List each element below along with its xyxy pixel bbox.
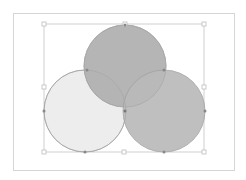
resize-handle[interactable]	[202, 22, 206, 26]
resize-handle[interactable]	[42, 85, 46, 89]
tangent-point-bottom-right	[163, 151, 166, 154]
venn-circle-right[interactable]	[123, 70, 205, 152]
resize-handle[interactable]	[202, 150, 206, 154]
center-point	[124, 110, 127, 113]
intersection-point	[163, 69, 166, 72]
tangent-point-left	[43, 110, 46, 113]
tangent-point-right	[204, 110, 207, 113]
intersection-point	[86, 69, 89, 72]
resize-handle[interactable]	[202, 85, 206, 89]
venn-diagram	[0, 0, 246, 180]
tangent-point-bottom-left	[84, 151, 87, 154]
resize-handle[interactable]	[42, 22, 46, 26]
tangent-point-top	[124, 24, 127, 27]
resize-handle[interactable]	[122, 150, 126, 154]
resize-handle[interactable]	[42, 150, 46, 154]
